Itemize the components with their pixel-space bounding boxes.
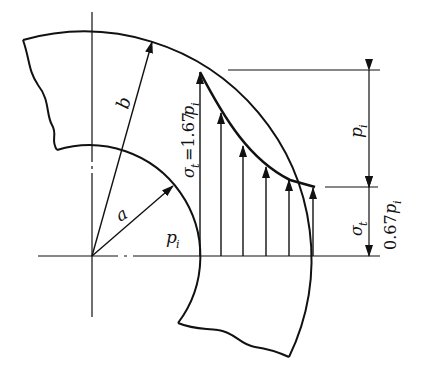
center-lines [38,12,380,317]
svg-text:i: i [357,124,370,128]
svg-text:i: i [189,102,202,106]
torn-edge-top [23,40,57,150]
label-dim-sigma-t: σ t [347,221,370,236]
label-pi-inner: p i [166,227,180,251]
label-max-stress: σ t =1.67 p i [179,102,202,178]
svg-text:0.67: 0.67 [381,214,400,250]
svg-text:t: t [357,221,370,226]
inner-radius-arrow [92,186,173,256]
outer-boundary [23,32,311,357]
label-dim-067pi: 0.67 p i [381,200,404,250]
stress-curve [200,72,315,187]
svg-text:=1.67: =1.67 [179,112,198,161]
torn-edge-bottom [178,323,289,357]
cylinder-section [23,32,311,357]
svg-text:t: t [189,163,202,168]
svg-text:p: p [179,106,198,116]
stress-diagram: b a p i σ t =1.67 p i p i σ t 0.67 p i [0,0,421,378]
svg-text:p: p [381,204,400,214]
radius-arrows [92,42,173,256]
label-dim-pi: p i [346,124,370,138]
diagram-canvas: b a p i σ t =1.67 p i p i σ t 0.67 p i [0,0,421,378]
label-b: b [112,94,135,111]
svg-text:i: i [391,200,404,204]
svg-text:i: i [176,238,180,251]
label-a: a [112,203,131,225]
